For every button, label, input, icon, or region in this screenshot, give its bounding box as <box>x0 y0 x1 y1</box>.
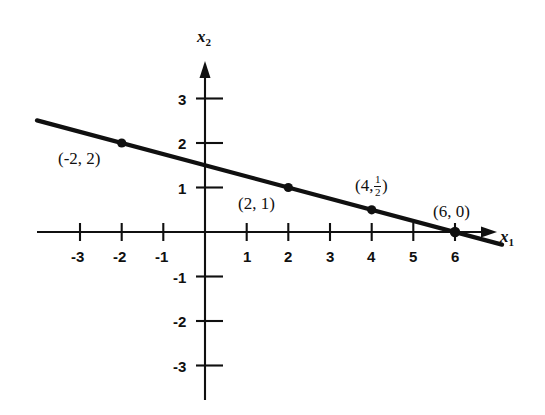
x-tick-label-6: 6 <box>451 249 459 264</box>
x-tick-label--2: -2 <box>113 249 126 264</box>
data-point-marker <box>367 205 376 214</box>
data-point-marker <box>284 183 293 192</box>
data-point-marker <box>450 227 460 237</box>
x-tick-label-2: 2 <box>284 249 292 264</box>
x-tick-label--3: -3 <box>71 249 84 264</box>
y-tick-label-1: 1 <box>178 181 186 196</box>
line-graph-figure: x1 x2 -3 -2 -1 1 2 3 4 5 6 3 2 1 -1 -2 -… <box>0 0 545 415</box>
x-tick-label--1: -1 <box>155 249 168 264</box>
line-series <box>37 120 502 244</box>
y-tick-label--3: -3 <box>173 359 186 374</box>
y-axis <box>200 61 211 400</box>
fraction-one-half: 12 <box>374 174 382 198</box>
y-tick-label--2: -2 <box>173 314 186 329</box>
data-point-marker <box>117 138 126 147</box>
x-tick-label-1: 1 <box>243 249 251 264</box>
point-label-6-0: (6, 0) <box>433 203 470 220</box>
point-label-2-1: (2, 1) <box>238 195 275 212</box>
y-tick-label-2: 2 <box>178 136 186 151</box>
x-tick-label-3: 3 <box>326 249 334 264</box>
point-label--2-2: (-2, 2) <box>58 150 100 167</box>
x-tick-label-5: 5 <box>409 249 417 264</box>
y-tick-label--1: -1 <box>173 270 186 285</box>
x-tick-label-4: 4 <box>367 249 375 264</box>
x-axis <box>37 227 497 238</box>
y-axis-label: x2 <box>197 28 211 48</box>
y-tick-label-3: 3 <box>178 92 186 107</box>
x-axis-label: x1 <box>500 228 514 248</box>
point-label-4-half: (4,12) <box>355 174 388 198</box>
